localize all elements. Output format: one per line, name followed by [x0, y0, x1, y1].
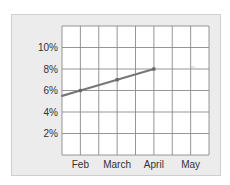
- line-chart: 2%4%6%8%10% FebMarchAprilMay: [0, 0, 230, 185]
- data-point-marker: [116, 78, 119, 81]
- data-point-marker: [79, 89, 82, 92]
- y-tick-label: 8%: [44, 64, 59, 75]
- x-tick-label: May: [181, 159, 200, 170]
- data-point-marker: [152, 67, 155, 70]
- x-tick-label: March: [103, 159, 131, 170]
- y-tick-label: 6%: [44, 85, 59, 96]
- y-tick-label: 4%: [44, 107, 59, 118]
- x-tick-label: Feb: [72, 159, 90, 170]
- x-axis-labels: FebMarchAprilMay: [72, 159, 200, 170]
- x-tick-label: April: [144, 159, 164, 170]
- y-axis-labels: 2%4%6%8%10%: [38, 42, 58, 139]
- y-tick-label: 10%: [38, 42, 58, 53]
- y-tick-label: 2%: [44, 128, 59, 139]
